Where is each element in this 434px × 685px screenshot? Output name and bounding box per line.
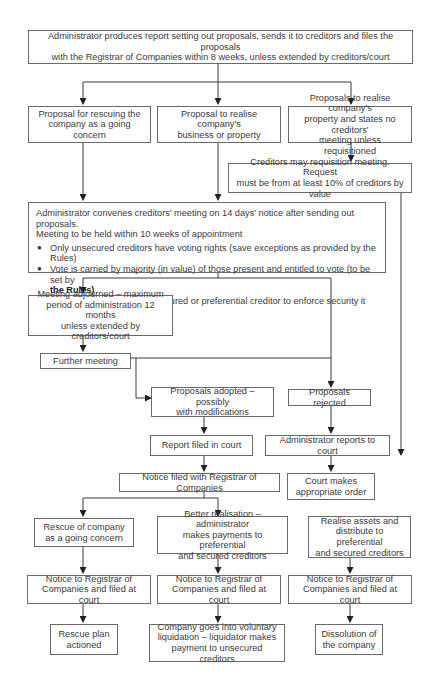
node-text: Rescue plan actioned: [58, 629, 109, 650]
node-text: Rescue of company as a going concern: [43, 522, 124, 543]
node-voluntary-liquidation: Company goes into voluntary liquidation …: [149, 624, 285, 662]
node-administrator-report: Administrator produces report setting ou…: [28, 30, 413, 64]
node-further-meeting: Further meeting: [40, 353, 131, 369]
node-realise-assets: Realise assets and distribute to prefere…: [308, 516, 411, 558]
bullet-icon: ●: [37, 243, 42, 254]
node-notice-mid: Notice to Registrar of Companies and fil…: [157, 575, 281, 604]
node-text: Proposal to realise company's business o…: [161, 109, 277, 141]
bullet-icon: ●: [37, 264, 42, 275]
node-text: Further meeting: [53, 356, 118, 367]
node-text: Creditors may requisition meeting. Reque…: [232, 157, 408, 199]
node-notice-left: Notice to Registrar of Companies and fil…: [27, 575, 151, 604]
node-text: Proposal for rescuing the company as a g…: [32, 109, 147, 141]
node-text: Notice to Registrar of Companies and fil…: [161, 574, 277, 606]
flowchart-canvas: Administrator produces report setting ou…: [0, 0, 434, 685]
meeting-rule-item: ● Only unsecured creditors have voting r…: [50, 243, 378, 264]
node-creditors-meeting: Administrator convenes creditors' meetin…: [28, 202, 386, 273]
node-meeting-adjourned: Meeting adjourned – maximum period of ad…: [28, 295, 173, 336]
node-notice-filed-registrar: Notice filed with Registrar of Companies: [119, 473, 280, 492]
node-text: Report filed in court: [162, 440, 242, 451]
node-text: Administrator produces report setting ou…: [32, 31, 409, 63]
node-proposal-rescue: Proposal for rescuing the company as a g…: [28, 106, 151, 143]
node-proposal-realise-business: Proposal to realise company's business o…: [157, 106, 281, 143]
node-rescue-plan: Rescue plan actioned: [50, 624, 118, 655]
node-proposals-rejected: Proposals rejected: [288, 389, 371, 406]
meeting-intro-text: Administrator convenes creditors' meetin…: [36, 208, 378, 240]
node-requisition-meeting: Creditors may requisition meeting. Reque…: [228, 163, 412, 193]
node-dissolution: Dissolution of the company: [315, 624, 383, 655]
node-text: Notice to Registrar of Companies and fil…: [292, 574, 408, 606]
node-report-filed: Report filed in court: [150, 435, 253, 456]
node-text: Notice filed with Registrar of Companies: [123, 472, 276, 493]
node-proposal-no-meeting: Proposals to realise company's property …: [288, 106, 412, 143]
node-text: Realise assets and distribute to prefere…: [312, 516, 407, 558]
node-text: Dissolution of the company: [321, 629, 376, 650]
node-admin-reports-court: Administrator reports to court: [265, 435, 390, 456]
node-court-order: Court makes appropriate order: [287, 473, 375, 500]
node-proposals-adopted: Proposals adopted – possibly with modifi…: [151, 387, 274, 417]
node-text: Company goes into voluntary liquidation …: [153, 622, 281, 664]
node-text: Administrator reports to court: [269, 435, 386, 456]
node-better-realisation: Better realisation – administrator makes…: [157, 516, 288, 554]
node-text: Meeting adjourned – maximum period of ad…: [32, 289, 169, 342]
node-notice-right: Notice to Registrar of Companies and fil…: [288, 575, 412, 604]
node-text: Better realisation – administrator makes…: [161, 509, 284, 562]
node-rescue-going-concern: Rescue of company as a going concern: [34, 518, 134, 547]
node-text: Notice to Registrar of Companies and fil…: [31, 574, 147, 606]
node-text: Proposals rejected: [292, 387, 367, 408]
node-text: Court makes appropriate order: [296, 476, 366, 497]
node-text: Proposals to realise company's property …: [292, 93, 408, 157]
node-text: Proposals adopted – possibly with modifi…: [155, 386, 270, 418]
